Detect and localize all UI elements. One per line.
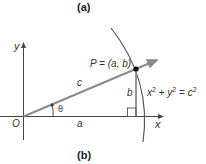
circle-equation: x2 + y2 = c2 — [146, 86, 197, 98]
hypotenuse-label: c — [77, 77, 82, 88]
unit-circle-diagram: (a) y x O θ P = (a, b) c a b x2 + y2 = c… — [0, 0, 206, 164]
eq-exp-c: 2 — [193, 86, 197, 93]
point-p — [133, 66, 138, 71]
adjacent-label: a — [77, 118, 83, 129]
y-axis-label: y — [13, 40, 21, 52]
angle-arc — [52, 105, 53, 117]
circle-arc — [111, 28, 145, 142]
point-p-label: P = (a, b) — [90, 58, 131, 69]
origin-label: O — [12, 118, 20, 129]
panel-label-b: (b) — [77, 149, 91, 161]
right-angle-marker — [128, 108, 137, 117]
angle-label: θ — [58, 104, 63, 114]
panel-label-a: (a) — [77, 1, 91, 13]
opposite-label: b — [127, 87, 133, 98]
eq-plus: + — [156, 87, 167, 98]
x-axis-label: x — [154, 118, 161, 130]
eq-equals: = — [176, 87, 187, 98]
